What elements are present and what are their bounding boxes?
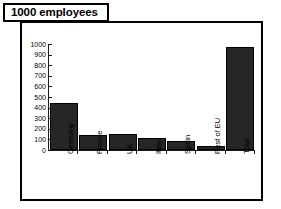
y-axis-tick xyxy=(48,97,52,98)
y-axis-tick-label: 500 xyxy=(18,94,46,101)
bar xyxy=(226,47,254,150)
x-axis-tick-label: Spain xyxy=(184,135,192,154)
y-axis-tick xyxy=(48,44,52,45)
x-axis-tick-label: Germany xyxy=(67,123,75,154)
y-axis-tick xyxy=(48,86,52,87)
chart-title-box: 1000 employees xyxy=(3,3,109,22)
page-title: 1000 employees xyxy=(11,7,98,19)
bar-chart: 10009008007006005004003002001000 Germany… xyxy=(0,0,281,209)
y-axis-tick xyxy=(48,65,52,66)
x-axis-tick xyxy=(166,150,167,154)
y-axis-tick xyxy=(48,150,52,151)
y-axis-tick-label: 1000 xyxy=(18,41,46,48)
y-axis-tick-label: 100 xyxy=(18,136,46,143)
x-axis-tick-label: France xyxy=(96,131,104,154)
y-axis-tick-label: 700 xyxy=(18,72,46,79)
y-axis-tick-label: 200 xyxy=(18,125,46,132)
y-axis-tick-label-wrap: 800 xyxy=(16,62,46,69)
y-axis-tick-label: 900 xyxy=(18,51,46,58)
x-axis-tick-label: Rest of EU xyxy=(214,116,222,154)
y-axis-tick xyxy=(48,76,52,77)
x-axis-tick-label: Total xyxy=(243,138,251,154)
x-axis-tick xyxy=(195,150,196,154)
y-axis-tick-label-wrap: 100 xyxy=(16,136,46,143)
y-axis-tick-label-wrap: 1000 xyxy=(16,41,46,48)
x-axis-tick xyxy=(225,150,226,154)
y-axis-tick-label: 600 xyxy=(18,83,46,90)
x-axis-tick xyxy=(136,150,137,154)
x-axis-tick xyxy=(107,150,108,154)
y-axis-tick-label-wrap: 600 xyxy=(16,83,46,90)
y-axis-tick-label: 300 xyxy=(18,115,46,122)
y-axis-tick-label-wrap: 900 xyxy=(16,51,46,58)
y-axis-tick-label: 800 xyxy=(18,62,46,69)
y-axis-tick xyxy=(48,55,52,56)
y-axis-tick-label-wrap: 200 xyxy=(16,125,46,132)
x-axis-line xyxy=(48,150,254,151)
x-axis-tick-label: Italy xyxy=(155,140,163,154)
y-axis-tick-label-wrap: 0 xyxy=(16,147,46,154)
y-axis-tick-label-wrap: 700 xyxy=(16,72,46,79)
x-axis-tick xyxy=(254,150,255,154)
x-axis-tick-label: UK xyxy=(126,144,134,154)
y-axis-tick-label: 400 xyxy=(18,104,46,111)
y-axis-tick-label-wrap: 500 xyxy=(16,94,46,101)
y-axis-tick-label-wrap: 300 xyxy=(16,115,46,122)
y-axis-tick-label: 0 xyxy=(18,147,46,154)
x-axis-tick xyxy=(77,150,78,154)
y-axis-tick-label-wrap: 400 xyxy=(16,104,46,111)
